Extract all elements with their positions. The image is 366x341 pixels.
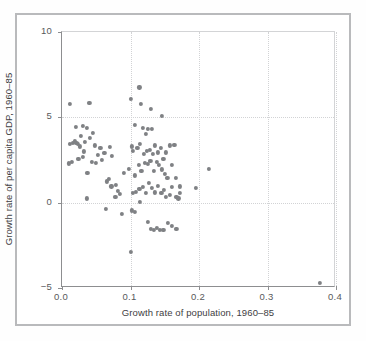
scatter-point (162, 188, 166, 192)
scatter-point (147, 181, 151, 185)
tick-mark-x (131, 286, 132, 290)
gridline-horizontal (62, 117, 334, 118)
tick-label-y: 0 (22, 196, 52, 207)
scatter-point (139, 169, 143, 173)
figure-container: Growth rate of per capita GDP, 1960–85 0… (0, 0, 366, 341)
scatter-point (104, 207, 108, 211)
scatter-point (109, 184, 113, 188)
scatter-point (82, 149, 86, 153)
scatter-point (83, 140, 87, 144)
scatter-point (94, 160, 98, 164)
scatter-point (96, 153, 100, 157)
scatter-point (102, 151, 106, 155)
scatter-point (70, 160, 74, 164)
scatter-point (98, 146, 102, 150)
y-axis-label-container: Growth rate of per capita GDP, 1960–85 (0, 31, 16, 287)
scatter-point (159, 191, 163, 195)
scatter-point (153, 190, 157, 194)
scatter-point (151, 152, 155, 156)
scatter-point (169, 163, 173, 167)
scatter-point (161, 228, 165, 232)
scatter-point (85, 196, 89, 200)
scatter-point (68, 102, 72, 106)
scatter-point (108, 145, 112, 149)
scatter-point (135, 146, 139, 150)
tick-mark-x (268, 286, 269, 290)
scatter-point (156, 150, 160, 154)
scatter-point (133, 123, 137, 127)
scatter-point (114, 183, 118, 187)
scatter-point (118, 192, 122, 196)
scatter-point (137, 85, 141, 89)
tick-mark-x (199, 286, 200, 290)
gridline-vertical (336, 32, 337, 286)
scatter-point (93, 143, 97, 147)
tick-label-x: 0.2 (178, 291, 218, 302)
gridline-vertical (199, 32, 200, 286)
tick-label-y: −5 (22, 281, 52, 292)
scatter-point (148, 159, 152, 163)
scatter-point (78, 144, 82, 148)
scatter-point (113, 195, 117, 199)
scatter-point (194, 186, 198, 190)
tick-mark-x (336, 286, 337, 290)
y-axis-label: Growth rate of per capita GDP, 1960–85 (3, 73, 14, 246)
scatter-point (80, 154, 84, 158)
x-axis-label: Growth rate of population, 1960–85 (61, 307, 335, 318)
tick-mark-y (58, 203, 62, 204)
scatter-point (141, 125, 145, 129)
scatter-point (167, 193, 171, 197)
tick-mark-y (58, 117, 62, 118)
scatter-point (100, 158, 104, 162)
scatter-point (150, 127, 154, 131)
scatter-point (88, 136, 92, 140)
scatter-point (174, 176, 178, 180)
scatter-point (159, 146, 163, 150)
tick-mark-x (62, 286, 63, 290)
tick-label-y: 5 (22, 110, 52, 121)
scatter-point (206, 166, 210, 170)
tick-mark-y (58, 288, 62, 289)
scatter-point (91, 131, 95, 135)
scatter-point (110, 154, 114, 158)
scatter-point (85, 125, 89, 129)
scatter-point (178, 184, 182, 188)
scatter-point (161, 157, 165, 161)
tick-label-x: 0.1 (110, 291, 150, 302)
scatter-point (137, 163, 141, 167)
scatter-point (122, 171, 126, 175)
scatter-point (170, 185, 174, 189)
scatter-point (138, 142, 142, 146)
scatter-point (87, 101, 91, 105)
scatter-point (79, 134, 83, 138)
scatter-point (146, 162, 150, 166)
gridline-horizontal (62, 203, 334, 204)
gridline-vertical (131, 32, 132, 286)
scatter-point (149, 107, 153, 111)
tick-label-y: 10 (22, 25, 52, 36)
scatter-point (164, 150, 168, 154)
tick-label-x: 0.3 (247, 291, 287, 302)
scatter-point (133, 173, 137, 177)
scatter-point (174, 227, 178, 231)
scatter-point (156, 183, 160, 187)
scatter-point (146, 220, 150, 224)
gridline-vertical (268, 32, 269, 286)
scatter-point (106, 177, 110, 181)
scatter-point (176, 196, 180, 200)
tick-label-x: 0.4 (315, 291, 355, 302)
scatter-point (128, 250, 132, 254)
scatter-point (139, 102, 143, 106)
scatter-point (143, 131, 147, 135)
scatter-point (152, 169, 156, 173)
scatter-point (172, 143, 176, 147)
plot-area (61, 31, 335, 287)
scatter-point (178, 191, 182, 195)
scatter-point (85, 171, 89, 175)
scatter-point (141, 185, 145, 189)
scatter-point (129, 96, 133, 100)
scatter-point (165, 176, 169, 180)
tick-label-x: 0.0 (41, 291, 81, 302)
scatter-point (141, 152, 145, 156)
scatter-point (143, 191, 147, 195)
